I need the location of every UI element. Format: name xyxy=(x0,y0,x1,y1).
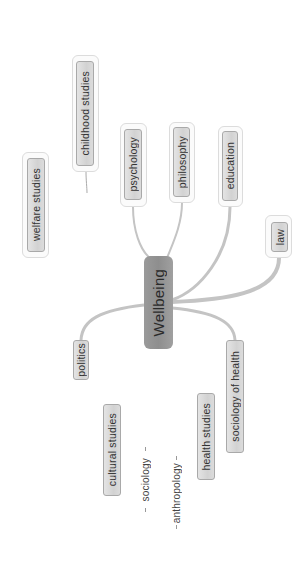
node-label: childhood studies xyxy=(79,71,91,156)
node-sociology-of-health[interactable]: sociology of health xyxy=(226,340,244,453)
node-label: cultural studies xyxy=(106,413,118,486)
root-node-wellbeing[interactable]: Wellbeing xyxy=(144,256,173,349)
node-label: health studies xyxy=(200,403,212,471)
node-cultural-studies[interactable]: cultural studies xyxy=(103,404,121,496)
node-law[interactable]: law xyxy=(271,222,288,252)
node-label: law xyxy=(274,229,286,245)
node-philosophy[interactable]: philosophy xyxy=(173,127,190,197)
node-label: anthropology xyxy=(171,463,182,523)
node-welfare-studies[interactable]: welfare studies xyxy=(27,158,45,252)
node-politics[interactable]: politics xyxy=(73,340,89,380)
node-label: education xyxy=(224,142,236,189)
node-childhood-studies[interactable]: childhood studies xyxy=(76,61,94,166)
sociology-tick xyxy=(145,447,146,451)
node-label: sociology of health xyxy=(229,351,241,442)
node-education[interactable]: education xyxy=(222,131,238,201)
anthropology-tick xyxy=(176,525,177,529)
sociology-tick xyxy=(145,508,146,512)
node-psychology[interactable]: psychology xyxy=(124,129,142,200)
root-label: Wellbeing xyxy=(150,269,167,336)
node-label: politics xyxy=(75,343,87,377)
mindmap-canvas: childhood studies welfare studies psycho… xyxy=(0,0,307,585)
node-label: welfare studies xyxy=(30,168,42,241)
node-health-studies[interactable]: health studies xyxy=(197,393,215,480)
node-sociology[interactable]: sociology xyxy=(139,452,151,508)
anthropology-tick xyxy=(176,456,177,460)
node-label: sociology xyxy=(140,458,151,502)
node-label: philosophy xyxy=(176,136,188,188)
node-anthropology[interactable]: anthropology xyxy=(170,461,182,525)
node-label: psychology xyxy=(127,137,139,192)
